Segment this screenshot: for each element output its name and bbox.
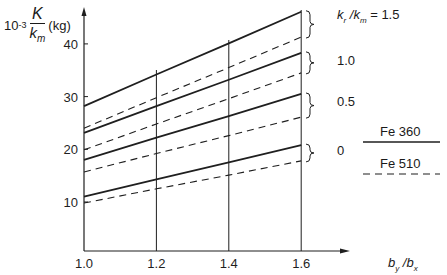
x-axis-label: by /bx [388, 255, 418, 273]
series-line-fe360-1.5 [84, 12, 301, 106]
brace-icon [306, 144, 314, 162]
series-line-fe360-0 [84, 145, 301, 197]
y-label-prefix: 10 [4, 18, 18, 33]
brace-icon [306, 52, 314, 74]
x-tick-label: 1.6 [292, 256, 310, 271]
y-tick-label: 20 [64, 142, 78, 157]
y-label-unit: (kg) [48, 18, 70, 33]
y-axis-label: 10-3 K km (kg) [4, 6, 71, 44]
gl-value: = 1.5 [367, 7, 400, 22]
x-tick-label: 1.2 [147, 256, 165, 271]
series-line-fe360-0.5 [84, 94, 301, 160]
legend-fe510-label: Fe 510 [380, 156, 420, 171]
series-line-fe510-0 [84, 161, 301, 203]
y-tick-label: 30 [64, 90, 78, 105]
group-label-0: 0 [337, 143, 344, 158]
x-axis-arrow-icon [340, 249, 350, 254]
y-label-denominator: km [29, 24, 45, 44]
series-line-fe510-1.5 [84, 37, 301, 128]
x-tick-label: 1.0 [75, 256, 93, 271]
gl-sub-m: m [360, 16, 367, 25]
y-label-exponent: -3 [18, 20, 26, 30]
gl-km: /k [346, 7, 360, 22]
series-line-fe510-1.0 [84, 73, 301, 150]
y-label-den-sub: m [37, 33, 45, 44]
group-label-1.5: kr /km = 1.5 [337, 7, 399, 25]
group-label-0.5: 0.5 [337, 94, 355, 109]
y-tick-label: 10 [64, 195, 78, 210]
y-axis-arrow-icon [82, 7, 87, 16]
legend-fe360-label: Fe 360 [380, 124, 420, 139]
xl-sub-x: x [414, 264, 418, 273]
series-line-fe360-1.0 [84, 53, 301, 133]
y-label-den-k: k [29, 24, 37, 41]
brace-icon [306, 93, 314, 118]
x-tick-label: 1.4 [220, 256, 238, 271]
xl-b2: b [406, 255, 413, 270]
y-label-fraction: K km [29, 6, 45, 44]
brace-icon [306, 11, 314, 38]
y-label-numerator: K [30, 6, 45, 24]
series-line-fe510-0.5 [84, 117, 301, 172]
group-label-1.0: 1.0 [337, 53, 355, 68]
